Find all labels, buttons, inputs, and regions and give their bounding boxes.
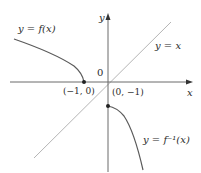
point-neg1-0-label: (−1, 0) (63, 87, 95, 96)
f-inverse-curve (108, 106, 143, 170)
inverse-function-diagram: y = f(x) y y = x 0 (−1, 0) (0, −1) x y =… (0, 0, 201, 173)
y-axis-arrow-icon (106, 13, 111, 20)
identity-label: y = x (155, 41, 181, 51)
y-axis-label: y (99, 13, 105, 23)
f-curve (14, 39, 84, 82)
point-0-neg1 (106, 104, 110, 108)
f-inverse-curve-label: y = f⁻¹(x) (143, 135, 190, 145)
point-neg1-0 (82, 80, 86, 84)
f-curve-label: y = f(x) (18, 24, 56, 34)
point-0-neg1-label: (0, −1) (112, 88, 144, 97)
x-axis-arrow-icon (186, 80, 193, 85)
x-axis-label: x (187, 88, 193, 98)
origin-label: 0 (97, 68, 103, 78)
